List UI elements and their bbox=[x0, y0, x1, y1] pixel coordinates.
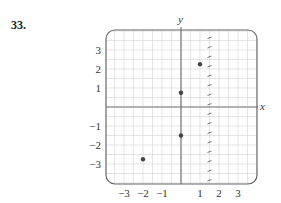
x-tick-label: 1 bbox=[197, 187, 203, 199]
axes bbox=[106, 27, 258, 184]
coordinate-graph: −3−2−1123−3−2−1123 y x bbox=[0, 0, 281, 203]
y-tick-label: 1 bbox=[96, 82, 102, 94]
y-tick-label: 2 bbox=[96, 63, 102, 75]
x-tick-label: −3 bbox=[118, 187, 130, 199]
y-axis-label: y bbox=[177, 13, 183, 25]
y-tick-label: −1 bbox=[89, 120, 101, 132]
y-tick-label: 3 bbox=[96, 44, 102, 56]
data-point bbox=[179, 133, 183, 137]
data-point bbox=[198, 62, 202, 66]
x-tick-label: 2 bbox=[216, 187, 222, 199]
x-tick-label: 3 bbox=[235, 187, 241, 199]
x-tick-label: −1 bbox=[156, 187, 168, 199]
y-tick-label: −2 bbox=[89, 139, 101, 151]
data-point bbox=[179, 91, 183, 95]
data-point bbox=[141, 157, 145, 161]
tick-labels: −3−2−1123−3−2−1123 bbox=[89, 44, 241, 199]
y-tick-label: −3 bbox=[89, 158, 101, 170]
x-axis-label: x bbox=[259, 100, 265, 112]
x-tick-label: −2 bbox=[137, 187, 149, 199]
